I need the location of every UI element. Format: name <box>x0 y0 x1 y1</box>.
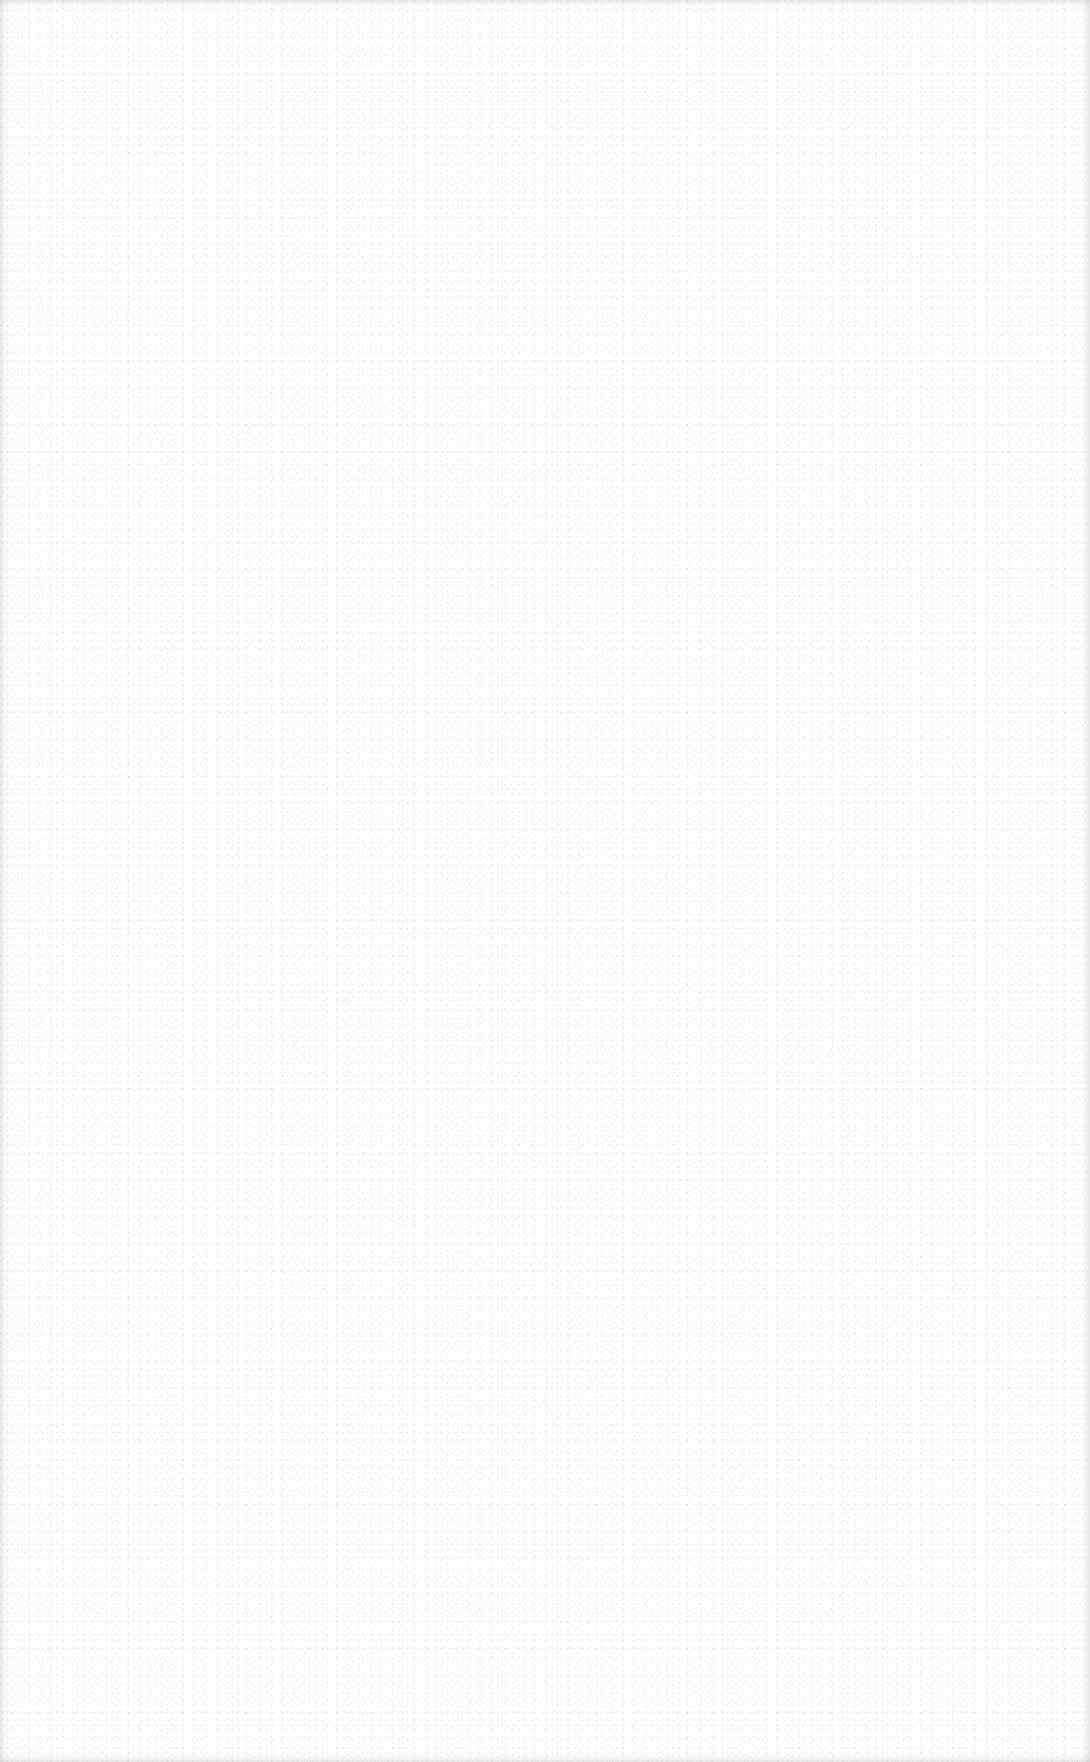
page-content-area <box>0 0 1090 1762</box>
blank-document-page <box>0 0 1090 1762</box>
